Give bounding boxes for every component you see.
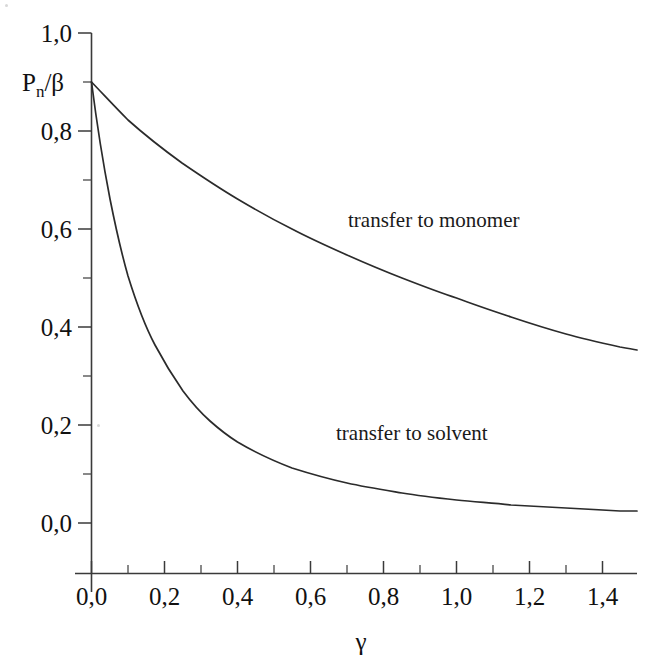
x-tick-label: 1,0 xyxy=(441,583,472,610)
y-tick-label: 0,6 xyxy=(41,216,72,243)
y-tick-label: 1,0 xyxy=(41,20,72,47)
x-tick-label: 0,6 xyxy=(295,583,326,610)
data-curves xyxy=(92,82,638,511)
curve-annotations: transfer to monomer transfer to solvent xyxy=(336,208,519,445)
x-tick-label: 1,4 xyxy=(587,583,619,610)
y-axis-tick-labels: 1,0 0,8 0,6 0,4 0,2 0,0 xyxy=(41,20,73,537)
annotation-transfer-to-monomer: transfer to monomer xyxy=(348,208,519,232)
scan-speck xyxy=(5,4,8,7)
x-tick-label: 0,8 xyxy=(368,583,399,610)
y-axis-label: Pn/β xyxy=(22,69,64,101)
curve-transfer-to-solvent xyxy=(92,82,638,511)
chart-figure: 1,0 0,8 0,6 0,4 0,2 0,0 0,0 0,2 0,4 0,6 … xyxy=(0,0,659,661)
axis-titles: Pn/β γ xyxy=(22,69,367,655)
axis-lines xyxy=(75,33,637,592)
x-tick-label: 1,2 xyxy=(514,583,545,610)
scan-speck xyxy=(97,424,100,427)
y-tick-label: 0,2 xyxy=(41,412,72,439)
x-axis-tick-labels: 0,0 0,2 0,4 0,6 0,8 1,0 1,2 1,4 xyxy=(76,583,619,610)
x-tick-label: 0,2 xyxy=(149,583,180,610)
x-axis-label: γ xyxy=(354,628,366,655)
y-axis-label-main: P xyxy=(22,69,36,96)
x-tick-label: 0,4 xyxy=(222,583,254,610)
x-tick-label: 0,0 xyxy=(76,583,107,610)
y-tick-label: 0,8 xyxy=(41,118,72,145)
y-tick-label: 0,4 xyxy=(41,314,73,341)
y-axis-label-tail: /β xyxy=(44,69,64,96)
chart-svg: 1,0 0,8 0,6 0,4 0,2 0,0 0,0 0,2 0,4 0,6 … xyxy=(0,0,659,661)
y-axis-minor-ticks xyxy=(83,82,92,474)
annotation-transfer-to-solvent: transfer to solvent xyxy=(336,421,488,445)
x-axis-minor-ticks xyxy=(128,565,566,574)
y-tick-label: 0,0 xyxy=(41,510,72,537)
